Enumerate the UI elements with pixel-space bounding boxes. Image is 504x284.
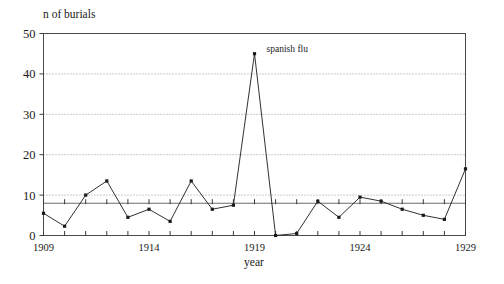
- y-axis-title: n of burials: [43, 8, 96, 20]
- x-tick-label-1919: 1919: [244, 242, 265, 253]
- data-point-1924: [358, 196, 361, 199]
- data-point-1909: [42, 212, 45, 215]
- data-point-1928: [443, 218, 446, 221]
- data-point-1912: [105, 179, 108, 182]
- x-tick-label-1924: 1924: [350, 242, 372, 253]
- data-point-1921: [295, 232, 298, 235]
- data-point-1919: [253, 52, 256, 55]
- data-point-1916: [190, 179, 193, 182]
- data-point-1913: [126, 216, 129, 219]
- data-point-1911: [84, 194, 87, 197]
- y-tick-label-50: 50: [23, 27, 36, 41]
- data-point-1915: [169, 220, 172, 223]
- data-point-1910: [63, 225, 66, 228]
- burials-line-chart: n of burials 01020304050 190919141919192…: [0, 0, 504, 284]
- data-point-1917: [211, 208, 214, 211]
- y-tick-label-20: 20: [23, 148, 36, 162]
- data-point-1914: [147, 208, 150, 211]
- y-tick-label-10: 10: [23, 189, 36, 203]
- data-point-1922: [316, 200, 319, 203]
- x-axis-title: year: [244, 256, 264, 269]
- chart-canvas: n of burials 01020304050 190919141919192…: [0, 0, 504, 284]
- x-tick-label-1909: 1909: [33, 242, 54, 253]
- data-point-1926: [401, 208, 404, 211]
- chart-annotations: spanish flu: [267, 44, 309, 54]
- chart-svg: n of burials 01020304050 190919141919192…: [0, 0, 504, 284]
- data-point-1925: [380, 200, 383, 203]
- x-tick-label-1929: 1929: [455, 242, 476, 253]
- data-point-1920: [274, 234, 277, 237]
- data-point-1918: [232, 204, 235, 207]
- reference-line: [44, 199, 466, 204]
- annotation-0: spanish flu: [267, 44, 309, 54]
- data-point-1923: [337, 216, 340, 219]
- data-point-1927: [422, 214, 425, 217]
- data-point-1929: [464, 167, 467, 170]
- x-tick-label-1914: 1914: [139, 242, 161, 253]
- y-tick-label-30: 30: [23, 108, 36, 122]
- x-axis-ticks: [44, 231, 466, 236]
- y-tick-label-40: 40: [23, 67, 36, 81]
